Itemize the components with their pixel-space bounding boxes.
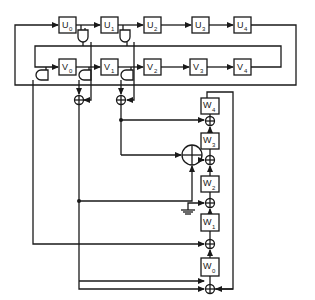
circuit-diagram: U 0 U 1 U 2 U 3 U 4 V 0 V 1 V 2 V 3 [0,0,315,300]
xor-icon [206,199,215,208]
xor1-wires [77,105,204,281]
register-cell-u0: U 0 [59,17,76,33]
register-cell-w2: W 2 [201,176,219,192]
cell-label: W [203,261,212,271]
register-cell-u2: U 2 [144,17,161,33]
cell-label: V [193,62,199,72]
register-cell-w4: W 4 [201,98,219,114]
xor-icon [206,117,215,126]
register-cell-v4: V 4 [234,59,251,75]
u-feedback-loop [15,25,296,85]
cell-label: V [104,62,110,72]
cell-label: U [237,20,244,30]
and-gate-icon [121,67,133,80]
cell-label: U [147,20,154,30]
xor-icon [117,96,126,105]
register-cell-v2: V 2 [144,59,161,75]
cell-label: V [147,62,153,72]
cell-label: W [203,217,212,227]
xor-icon [206,156,215,165]
and-gate-icon [36,67,48,80]
cell-label: W [203,100,212,110]
cell-label: W [203,135,212,145]
xor-icon [75,96,84,105]
and-gate-icon [78,25,88,46]
and-gate-icon [79,67,91,80]
register-cell-v0: V 0 [59,59,76,75]
register-cell-u1: U 1 [101,17,118,33]
register-cell-v1: V 1 [101,59,118,75]
register-cell-u3: U 3 [192,17,209,33]
cell-label: U [104,20,111,30]
ground-icon [181,203,204,214]
register-cell-w3: W 3 [201,133,219,149]
xor-icon [206,240,215,249]
register-cell-u4: U 4 [234,17,251,33]
register-cell-w0: W 0 [201,258,219,276]
bottom-xor-input [79,281,204,289]
cell-label: V [62,62,68,72]
cell-label: U [62,20,69,30]
cell-label: U [195,20,202,30]
register-cell-w1: W 1 [201,214,219,231]
cell-label: W [203,178,212,188]
xor-icon [206,285,215,294]
register-cell-v3: V 3 [190,59,207,75]
cell-label: V [237,62,243,72]
and-gate-icon [120,25,130,46]
